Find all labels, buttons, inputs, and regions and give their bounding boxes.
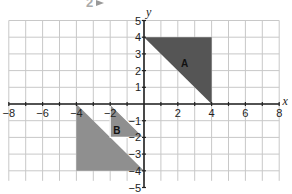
coordinate-grid-figure: 2 AB xy −8−6−4−2246854321−1−2−3−4−5 [0,0,292,194]
x-tick-label: −4 [70,107,83,119]
axes: xy [9,5,289,187]
x-tick-label: −2 [104,107,117,119]
x-tick-label: −6 [36,107,49,119]
y-axis-label: y [145,5,152,19]
y-tick-label: −4 [128,165,141,177]
y-tick-label: −2 [128,131,141,143]
y-tick-label: −5 [128,182,141,194]
x-tick-label: −8 [3,107,16,119]
shape-b-label: B [113,125,120,136]
x-tick-label: 6 [242,107,248,119]
y-tick-label: −1 [128,115,141,127]
shape-a-label: A [181,58,188,69]
question-number: 2 [86,0,93,10]
y-tick-label: 3 [135,48,141,60]
x-tick-label: 2 [175,107,181,119]
y-tick-label: 1 [135,81,141,93]
y-tick-label: 2 [135,65,141,77]
y-tick-label: 5 [135,15,141,27]
y-tick-label: −3 [128,148,141,160]
arrow-right-icon [96,0,104,6]
y-tick-label: 4 [135,31,141,43]
question-header: 2 [86,0,104,10]
x-axis-label: x [282,94,289,108]
x-tick-label: 4 [209,107,215,119]
x-tick-label: 8 [276,107,282,119]
